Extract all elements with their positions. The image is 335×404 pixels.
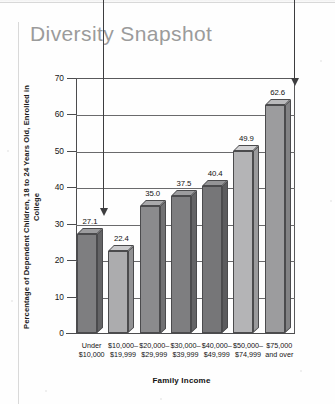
bar-side-face	[128, 246, 134, 333]
y-axis-title: Percentage of Dependent Children, 18 to …	[22, 78, 41, 336]
bar-side-face	[253, 146, 259, 333]
y-axis-tick	[67, 333, 76, 334]
bar-value-label: 27.1	[74, 217, 106, 226]
bar-side-face	[191, 191, 197, 333]
y-axis-tick-label: 0	[44, 328, 64, 338]
bar	[77, 228, 103, 333]
y-axis-tick-label: 50	[44, 146, 64, 156]
y-axis-tick	[67, 187, 76, 188]
bar	[202, 180, 228, 333]
bar-value-label: 22.4	[105, 234, 137, 243]
bar-side-face	[160, 200, 166, 333]
x-axis-title: Family Income	[0, 376, 335, 385]
bar-front-face	[171, 196, 191, 333]
annotation-arrow-line-right	[294, 0, 295, 81]
bar	[171, 190, 197, 333]
bar-value-label: 49.9	[230, 134, 262, 143]
bar-value-label: 35.0	[137, 189, 169, 198]
y-axis-tick	[67, 78, 76, 79]
y-axis-tick-label: 30	[44, 219, 64, 229]
scanned-chart-page: Diversity Snapshot Percentage of Depende…	[0, 0, 335, 404]
page-left-rule	[18, 22, 19, 404]
bar-front-face	[77, 234, 97, 333]
bar-side-face	[97, 229, 103, 333]
y-axis-tick	[67, 114, 76, 115]
bar-side-face	[285, 100, 291, 333]
bar	[233, 145, 259, 333]
plot-inner	[76, 79, 294, 333]
scan-speck	[11, 300, 13, 302]
scan-speck	[320, 60, 322, 62]
y-axis-tick-label: 40	[44, 182, 64, 192]
x-axis-category-label-line: $75,000	[255, 341, 304, 350]
bar-front-face	[140, 206, 160, 334]
bar-front-face	[265, 105, 285, 333]
scan-speck	[300, 370, 302, 372]
annotation-arrow-line-left	[103, 0, 104, 211]
x-axis-title-text: Family Income	[152, 376, 210, 385]
scan-speck	[330, 200, 332, 202]
gridline	[76, 115, 295, 116]
bar	[140, 200, 166, 334]
bar-value-label: 40.4	[199, 169, 231, 178]
y-axis-tick	[67, 151, 76, 152]
gridline	[76, 152, 295, 153]
bar	[108, 245, 134, 333]
scan-speck	[25, 120, 27, 122]
bar-front-face	[202, 186, 222, 333]
x-axis-category-label-line: and over	[255, 350, 304, 359]
scan-speck	[7, 150, 9, 152]
y-axis-tick	[67, 297, 76, 298]
bar-front-face	[233, 151, 253, 333]
x-axis-line	[66, 333, 295, 334]
y-axis-title-wrapper: Percentage of Dependent Children, 18 to …	[22, 78, 46, 336]
bar-front-face	[108, 251, 128, 333]
y-axis-tick-label: 10	[44, 292, 64, 302]
annotation-arrow-head-left	[100, 208, 108, 216]
y-axis-tick-label: 60	[44, 109, 64, 119]
bar-value-label: 37.5	[168, 179, 200, 188]
scan-speck	[160, 398, 162, 400]
scan-speck	[45, 390, 47, 392]
page-title: Diversity Snapshot	[30, 22, 212, 46]
x-axis-category-label: $75,000and over	[255, 341, 304, 360]
y-axis-tick	[67, 260, 76, 261]
page-top-rule	[0, 2, 335, 3]
plot-area	[76, 78, 295, 333]
bar	[265, 99, 291, 333]
bar-side-face	[222, 180, 228, 333]
annotation-arrow-head-right	[291, 78, 299, 86]
y-axis-tick-label: 70	[44, 73, 64, 83]
y-axis-tick-label: 20	[44, 255, 64, 265]
bar-value-label: 62.6	[262, 88, 294, 97]
